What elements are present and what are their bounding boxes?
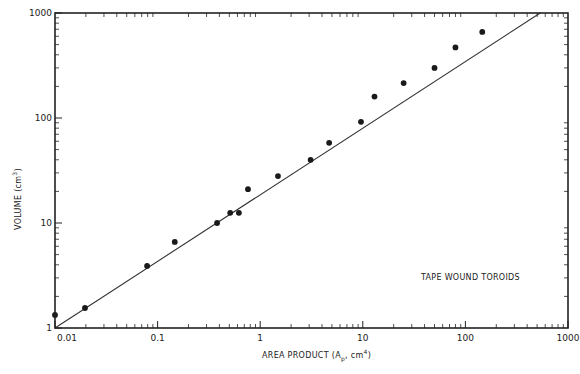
data-point <box>401 80 407 86</box>
y-axis-title: VOLUME (cm3) <box>11 168 23 230</box>
tick-labels: 0.010.111010010001101001000 <box>29 8 580 343</box>
chart-canvas: 0.010.111010010001101001000 AREA PRODUCT… <box>0 0 580 374</box>
data-point <box>236 210 242 216</box>
x-tick-label: 10 <box>357 333 369 343</box>
x-tick-label: 100 <box>457 333 474 343</box>
data-point <box>372 94 378 100</box>
data-point <box>358 119 364 125</box>
x-tick-label: 1000 <box>557 333 580 343</box>
data-point <box>479 29 485 35</box>
x-axis-title: AREA PRODUCT (Ap, cm4) <box>262 348 371 363</box>
y-tick-label: 1 <box>46 323 52 333</box>
x-tick-label: 1 <box>257 333 263 343</box>
data-point <box>432 65 438 71</box>
data-point <box>82 305 88 311</box>
x-tick-label: 0.01 <box>57 333 77 343</box>
data-point <box>245 186 251 192</box>
data-point <box>214 220 220 226</box>
data-point <box>275 173 281 179</box>
chart-annotation: TAPE WOUND TOROIDS <box>420 273 520 282</box>
y-tick-label: 100 <box>35 113 52 123</box>
x-tick-label: 0.1 <box>150 333 164 343</box>
y-tick-label: 1000 <box>29 8 52 18</box>
y-tick-label: 10 <box>41 218 53 228</box>
data-point <box>326 140 332 146</box>
data-point <box>144 263 150 269</box>
data-point <box>172 239 178 245</box>
data-point <box>227 210 233 216</box>
data-point <box>453 45 459 51</box>
data-point <box>308 157 314 163</box>
